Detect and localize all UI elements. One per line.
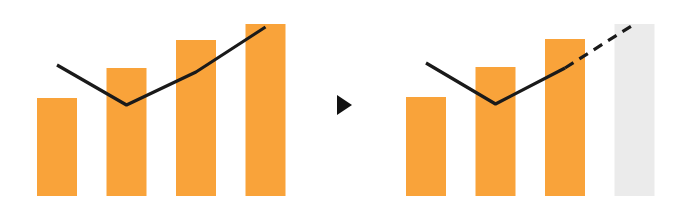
bar: [246, 24, 286, 196]
left-chart: [37, 24, 286, 196]
bar: [476, 67, 516, 196]
play-arrow-icon: [337, 95, 352, 115]
chart-canvas: [0, 0, 688, 218]
bar: [37, 98, 77, 196]
bar: [545, 39, 585, 196]
bar: [107, 68, 147, 196]
trend-line: [57, 27, 266, 105]
bar: [406, 97, 446, 196]
right-chart: [406, 24, 655, 196]
forecast-bar: [615, 24, 655, 196]
